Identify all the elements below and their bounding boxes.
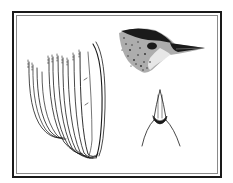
wing-feathers-drawing [28, 42, 105, 158]
bird-head-drawing [119, 29, 205, 73]
illustration-canvas [0, 0, 233, 183]
beak-ventral-drawing [142, 90, 180, 146]
